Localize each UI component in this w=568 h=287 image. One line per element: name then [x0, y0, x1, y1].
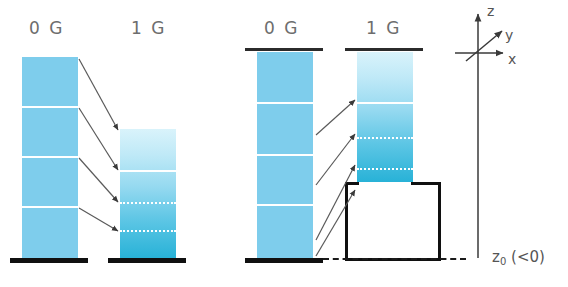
right-zero-g-base-plate — [245, 258, 323, 263]
right-zero-g-label: 0 G — [264, 18, 299, 38]
right-one-g-divider-1 — [357, 102, 413, 104]
left-one-g-base-plate — [108, 258, 186, 263]
figure-canvas: 0 G 1 G 0 G 1 G — [0, 0, 568, 287]
right-zero-g-divider-1 — [257, 102, 313, 104]
left-zero-g-divider-3 — [22, 206, 78, 208]
z0-subscript: 0 — [500, 256, 506, 267]
axis-label-z: z — [487, 3, 494, 19]
z0-condition: (<0) — [511, 248, 545, 266]
left-zero-g-divider-2 — [22, 156, 78, 158]
coordinate-axes — [455, 14, 503, 258]
left-one-g-divider-2 — [120, 202, 176, 204]
right-one-g-divider-3 — [357, 168, 413, 170]
right-one-g-top-plate — [345, 48, 423, 51]
right-zero-g-column — [257, 52, 313, 258]
right-one-g-column — [357, 52, 413, 182]
left-panel-arrow-group — [79, 59, 118, 231]
right-zero-g-divider-2 — [257, 154, 313, 156]
left-zero-g-label: 0 G — [29, 18, 64, 38]
z0-symbol: z — [492, 248, 500, 266]
left-arrow-2 — [79, 108, 118, 170]
right-one-g-divider-2 — [357, 137, 413, 139]
right-zero-g-top-plate — [245, 48, 323, 51]
left-arrow-3 — [79, 158, 118, 202]
left-zero-g-base-plate — [10, 258, 88, 263]
left-zero-g-column — [22, 57, 78, 258]
right-arrow-2 — [316, 134, 355, 185]
right-one-g-label: 1 G — [366, 18, 401, 38]
left-arrow-1 — [79, 59, 118, 130]
right-zero-g-divider-3 — [257, 204, 313, 206]
z0-dashed-line — [323, 258, 466, 260]
left-one-g-divider-1 — [120, 170, 176, 172]
z0-label: z0 (<0) — [492, 248, 545, 267]
left-arrow-4 — [79, 208, 118, 231]
y-axis-line — [466, 31, 502, 61]
left-one-g-column — [120, 129, 176, 258]
axis-label-y: y — [505, 27, 513, 43]
left-one-g-label: 1 G — [131, 18, 166, 38]
left-one-g-divider-3 — [120, 230, 176, 232]
axis-label-x: x — [508, 51, 516, 67]
trapping-well-box — [345, 182, 441, 261]
left-zero-g-divider-1 — [22, 106, 78, 108]
right-arrow-1 — [316, 100, 355, 135]
